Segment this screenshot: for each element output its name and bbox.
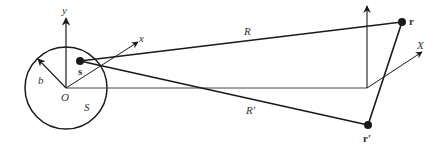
x-axis-label: x (138, 32, 144, 44)
region-label: S (84, 101, 90, 113)
source-point-dot (76, 57, 84, 65)
field-point-r-dot (398, 18, 406, 26)
far-X-axis-arrow (367, 52, 422, 88)
distance-R-line (80, 22, 402, 61)
distance-R-prime-line (80, 61, 368, 125)
radius-label: b (38, 74, 44, 86)
y-axis-label: y (61, 4, 67, 16)
field-point-r-prime-label: r′ (363, 132, 371, 144)
r-to-r-prime-line (368, 22, 402, 125)
origin-label: O (61, 91, 69, 103)
geometry-diagram: y x O b s S R R′ r r′ X (0, 0, 441, 153)
far-X-axis-label: X (416, 39, 425, 51)
field-point-r-prime-dot (364, 121, 372, 129)
distance-R-prime-label: R′ (245, 104, 256, 116)
field-point-r-label: r (409, 15, 414, 27)
distance-R-label: R (243, 25, 251, 37)
source-point-label: s (78, 65, 83, 77)
diagram-canvas: y x O b s S R R′ r r′ X (0, 0, 441, 153)
